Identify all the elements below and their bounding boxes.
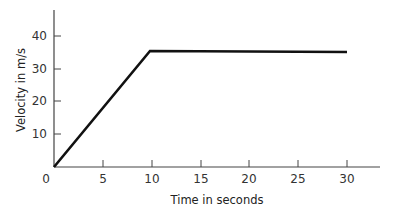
y-ticks	[54, 36, 61, 134]
x-tick-label: 20	[241, 172, 256, 186]
x-tick-label: 15	[193, 172, 208, 186]
y-axis-title: Velocity in m/s	[14, 48, 28, 132]
y-tick-label: 20	[32, 94, 47, 108]
velocity-time-chart: 0 5 10 15 20 25 30 10 20 30 40 Time in s…	[0, 0, 399, 210]
x-axis-title: Time in seconds	[170, 193, 264, 207]
x-tick-label: 5	[99, 172, 107, 186]
origin-label: 0	[42, 172, 50, 186]
y-tick-label: 10	[32, 127, 47, 141]
y-tick-label: 30	[32, 62, 47, 76]
x-tick-label: 10	[144, 172, 159, 186]
velocity-line	[54, 51, 347, 167]
x-tick-label: 25	[290, 172, 305, 186]
x-ticks	[103, 160, 347, 167]
x-tick-label: 30	[339, 172, 354, 186]
y-tick-label: 40	[32, 29, 47, 43]
